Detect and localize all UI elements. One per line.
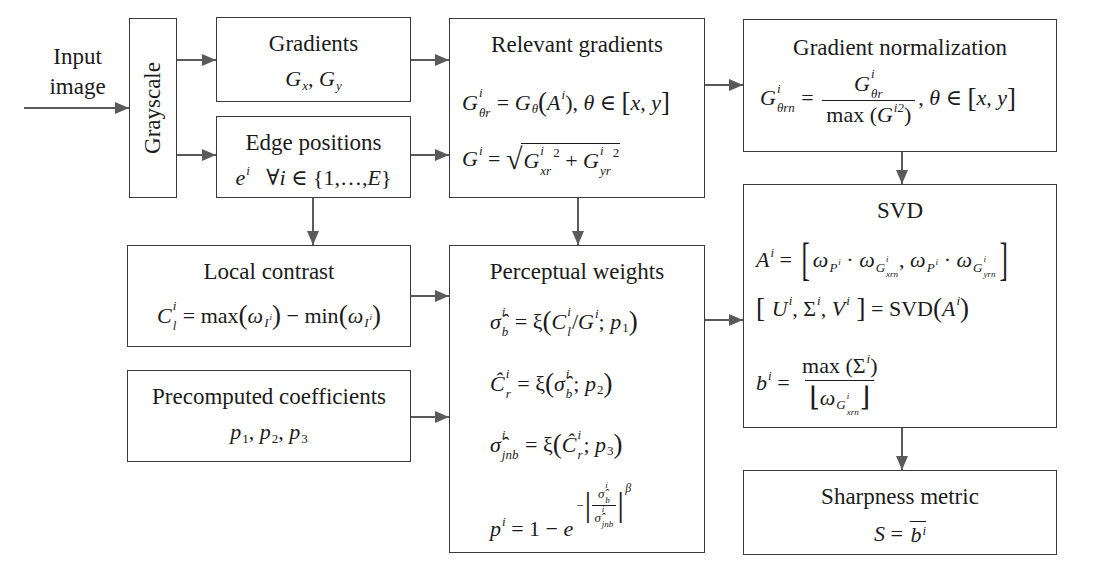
var: A <box>756 249 769 271</box>
power: 2 <box>553 146 560 159</box>
var: G <box>760 87 776 109</box>
bracket: ] <box>1007 85 1016 112</box>
var: U <box>772 298 788 320</box>
fraction: max (Σ i ) ⌊ ω Gixrn ⌋ <box>798 355 881 411</box>
max-function: max ( <box>826 104 877 126</box>
subscript: jnb <box>502 448 519 462</box>
edge-positions-box: Edge positions e i ∀ i ∈ {1,…, E } <box>216 116 411 198</box>
superscript: i <box>922 524 926 537</box>
subscript: yr <box>600 164 611 178</box>
comma: , <box>278 421 289 443</box>
subscript: r <box>506 387 511 401</box>
max-function: = max <box>177 305 238 327</box>
var: G <box>285 68 301 90</box>
comma: , <box>821 298 832 320</box>
superscript: i <box>838 258 841 267</box>
fraction: G iθr max ( G i2 ) <box>822 70 915 126</box>
denominator: ⌊ ω Gixrn ⌋ <box>805 380 874 411</box>
var: G <box>877 104 893 126</box>
paren: ), <box>565 92 583 114</box>
var: I <box>264 316 268 329</box>
subscript: xrn <box>847 408 859 417</box>
power: 2 <box>613 146 620 159</box>
var: x, y <box>976 87 1007 109</box>
subscript: b <box>502 325 509 339</box>
var: p <box>230 421 241 443</box>
input-image-label: Input image <box>30 42 125 102</box>
superscript: i <box>936 258 939 267</box>
relevant-gradient-equation: G iθr = G θ ( A i ), θ ∈ [ x, y ] <box>462 89 670 116</box>
var: G <box>973 261 982 274</box>
superscript: i2 <box>894 101 904 114</box>
var: ω <box>910 249 926 271</box>
sup-sub: ir <box>506 370 511 397</box>
subscript: 1 <box>622 321 629 334</box>
subscript: θr <box>871 87 882 101</box>
superscript: i <box>886 255 898 264</box>
relevant-gradients-title: Relevant gradients <box>450 33 704 57</box>
sharpness-metric-box: Sharpness metric S = b i <box>743 470 1057 555</box>
var: x, y <box>631 92 662 114</box>
denominator: max ( G i2 ) <box>822 100 915 126</box>
var: A <box>547 92 560 114</box>
var: p <box>260 421 271 443</box>
input-label-line2: image <box>30 72 125 102</box>
equals: = <box>774 249 797 271</box>
var: e <box>563 518 573 540</box>
paren: ) <box>904 104 911 126</box>
minus: − <box>576 499 583 512</box>
perceptual-weights-box: Perceptual weights σ̂ ib = ξ ( C il / G … <box>449 245 705 553</box>
var: σ̂ <box>490 434 501 456</box>
subscript: Pi <box>927 261 938 274</box>
sqrt-symbol: √ <box>506 144 522 174</box>
var: θ <box>929 87 940 109</box>
superscript: i <box>246 164 250 177</box>
gradient-magnitude-equation: G i = √ G ixr 2 + G iyr 2 <box>462 143 620 174</box>
var: σ̂ <box>490 311 501 333</box>
paren: ( <box>543 308 552 335</box>
subscript: b <box>566 387 573 401</box>
comma: , <box>792 298 803 320</box>
superscript: i <box>789 294 793 307</box>
sup-sub: ib <box>502 308 509 335</box>
var: p <box>595 434 606 456</box>
superscript: i <box>846 294 850 307</box>
var: G <box>854 73 870 95</box>
sup-sub: ir <box>577 431 582 458</box>
sup-sub: ib <box>566 370 573 397</box>
gradients-title: Gradients <box>217 32 410 56</box>
equals: = <box>483 148 506 170</box>
subscript: Giyrn <box>973 258 996 277</box>
paren: ( <box>538 89 547 116</box>
var: ω <box>348 305 364 327</box>
subscript: l <box>567 325 571 339</box>
subscript: Ii <box>364 316 372 329</box>
paren: ( <box>339 302 348 329</box>
subscript: 3 <box>607 444 614 457</box>
subscript: jnb <box>602 520 614 529</box>
var: p <box>585 373 596 395</box>
comma: , <box>918 87 929 109</box>
var: Σ <box>803 298 816 320</box>
subscript: xr <box>540 164 551 178</box>
superscript: i <box>269 313 272 322</box>
set-close: } <box>381 167 392 189</box>
var: σ̂ <box>554 373 565 395</box>
equals: = <box>491 92 514 114</box>
var: P <box>927 261 935 274</box>
paren: ) <box>870 355 877 377</box>
superscript: i <box>502 428 519 442</box>
subscript: θr <box>479 106 490 120</box>
svd-title: SVD <box>744 199 1056 223</box>
var: G <box>876 261 885 274</box>
precomputed-coefficients-box: Precomputed coefficients p 1 , p 2 , p 3 <box>127 370 411 462</box>
local-contrast-box: Local contrast C il = max ( ω Ii ) − min… <box>127 245 411 347</box>
var: σ̂ <box>598 487 604 500</box>
equals: = <box>796 87 819 109</box>
c-r-equation: Ĉ ir = ξ ( σ̂ ib ; p 2 ) <box>490 370 612 397</box>
bracket: [ <box>622 89 631 116</box>
superscript: i <box>595 307 599 320</box>
numerator: G iθr <box>850 70 887 100</box>
max-function: max (Σ <box>802 355 866 377</box>
xi-function: = ξ <box>509 311 542 333</box>
